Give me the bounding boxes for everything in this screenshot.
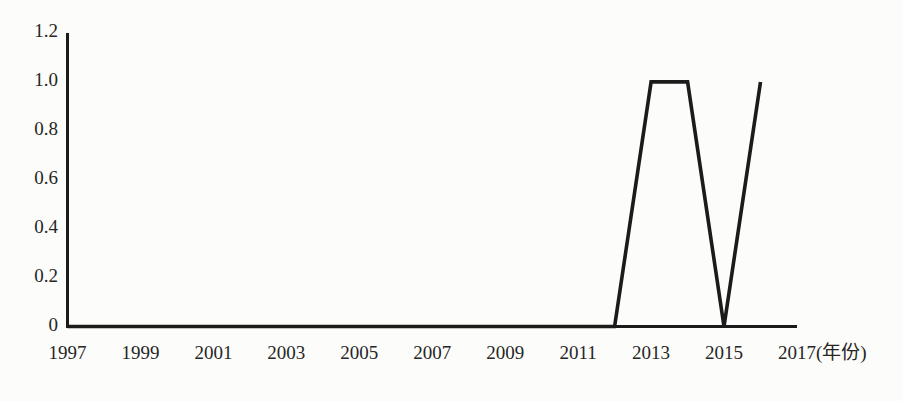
y-tick-label: 1.2 <box>34 20 58 41</box>
y-tick-label: 0.6 <box>34 167 58 188</box>
x-tick-label: 1999 <box>121 342 159 363</box>
x-tick-label: 2011 <box>560 342 597 363</box>
x-tick-label: 2003 <box>267 342 305 363</box>
x-tick-label: 2005 <box>340 342 378 363</box>
y-tick-label: 0 <box>49 314 59 335</box>
y-tick-label: 0.2 <box>34 265 58 286</box>
y-tick-label: 0.8 <box>34 118 58 139</box>
x-tick-label: 2017 <box>778 342 816 363</box>
y-tick-label: 1.0 <box>34 69 58 90</box>
x-tick-label: 2001 <box>194 342 232 363</box>
data-line-series <box>68 82 761 327</box>
x-tick-label: 2015 <box>705 342 743 363</box>
x-tick-label: 2013 <box>632 342 670 363</box>
x-tick-label: 1997 <box>49 342 87 363</box>
x-axis-unit-label: (年份) <box>816 342 867 364</box>
chart-page: 00.20.40.60.81.01.2199719992001200320052… <box>0 0 903 401</box>
x-tick-label: 2009 <box>486 342 524 363</box>
line-chart: 00.20.40.60.81.01.2199719992001200320052… <box>0 0 903 401</box>
y-tick-label: 0.4 <box>34 216 58 237</box>
x-tick-label: 2007 <box>413 342 451 363</box>
